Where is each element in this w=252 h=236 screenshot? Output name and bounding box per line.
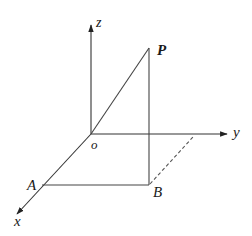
label-y: y <box>231 124 240 140</box>
label-a: A <box>26 177 37 193</box>
label-z: z <box>95 15 102 30</box>
label-x: x <box>13 213 21 229</box>
label-origin: o <box>91 137 98 152</box>
coordinate-diagram: z P y o A B x <box>0 0 252 236</box>
label-b: B <box>153 184 162 200</box>
segment-b-dashed <box>150 137 193 184</box>
label-p: P <box>157 42 167 58</box>
x-axis <box>17 134 91 214</box>
segment-op <box>91 48 149 134</box>
